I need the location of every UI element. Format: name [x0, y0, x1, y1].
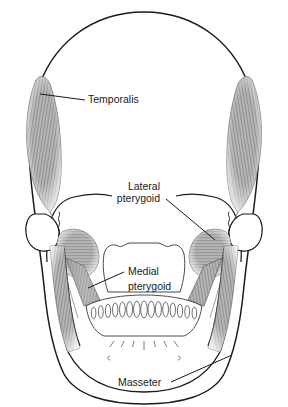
- teeth: [86, 295, 202, 336]
- anatomical-figure: Temporalis Lateral pterygoid Medial pter…: [0, 0, 288, 407]
- tooth: [134, 301, 140, 317]
- tooth: [141, 301, 148, 318]
- label-temporalis-text: Temporalis: [88, 93, 139, 105]
- tooth: [185, 306, 190, 319]
- condyle-right-head: [229, 214, 262, 251]
- label-masseter: Masseter: [118, 376, 162, 388]
- tooth: [113, 303, 118, 317]
- tooth: [98, 306, 103, 319]
- tooth: [170, 303, 175, 317]
- label-masseter-text: Masseter: [118, 376, 162, 388]
- tooth: [148, 301, 154, 317]
- tooth: [105, 304, 110, 317]
- tooth: [91, 307, 96, 319]
- tooth: [120, 302, 126, 317]
- label-lateral-pterygoid-line1: Lateral: [128, 180, 160, 192]
- condyle-left-head: [26, 214, 59, 251]
- label-medial-pterygoid-line1: Medial: [128, 265, 159, 277]
- skull-illustration: Temporalis Lateral pterygoid Medial pter…: [0, 0, 288, 407]
- tooth: [163, 302, 169, 317]
- label-temporalis: Temporalis: [88, 93, 139, 105]
- label-medial-pterygoid-line2: pterygoid: [128, 280, 171, 292]
- tooth: [177, 304, 182, 317]
- label-lateral-pterygoid-line2: pterygoid: [117, 192, 160, 204]
- tooth: [155, 302, 161, 318]
- tooth: [192, 307, 197, 319]
- tooth: [127, 302, 133, 318]
